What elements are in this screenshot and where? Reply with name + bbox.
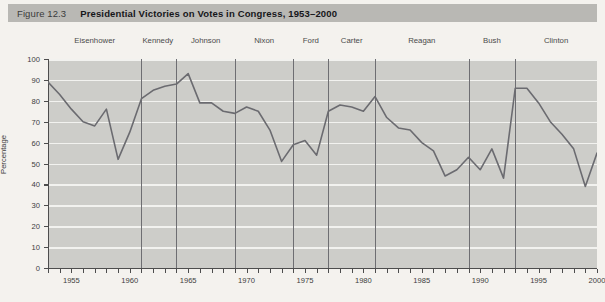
x-tick-1964	[176, 269, 177, 273]
x-tick-1975	[305, 269, 306, 273]
x-tick-1990	[480, 269, 481, 273]
x-tick-1970	[247, 269, 248, 273]
x-tick-1953	[48, 269, 49, 273]
x-tick-1966	[200, 269, 201, 273]
series-path-0	[48, 74, 597, 187]
x-tick-1957	[95, 269, 96, 273]
x-tick-1976	[317, 269, 318, 273]
x-tick-label-1965: 1965	[180, 276, 197, 285]
y-tick-label-80: 80	[14, 96, 40, 105]
y-tick-label-50: 50	[14, 159, 40, 168]
x-tick-1983	[398, 269, 399, 273]
x-tick-label-1985: 1985	[413, 276, 430, 285]
x-tick-1993	[515, 269, 516, 273]
y-tick-label-10: 10	[14, 243, 40, 252]
x-tick-1992	[504, 269, 505, 273]
x-tick-2000	[597, 269, 598, 273]
x-tick-1991	[492, 269, 493, 273]
x-tick-1978	[340, 269, 341, 273]
x-tick-1979	[352, 269, 353, 273]
x-tick-1984	[410, 269, 411, 273]
x-tick-1987	[445, 269, 446, 273]
x-tick-1986	[433, 269, 434, 273]
x-tick-1958	[106, 269, 107, 273]
x-tick-1977	[328, 269, 329, 273]
x-tick-1988	[457, 269, 458, 273]
x-tick-1963	[165, 269, 166, 273]
x-tick-1965	[188, 269, 189, 273]
x-tick-1997	[562, 269, 563, 273]
x-tick-1994	[527, 269, 528, 273]
y-tick-label-0: 0	[14, 264, 40, 273]
x-tick-1989	[469, 269, 470, 273]
x-tick-1962	[153, 269, 154, 273]
x-tick-1999	[585, 269, 586, 273]
x-tick-label-1975: 1975	[297, 276, 314, 285]
x-tick-1969	[235, 269, 236, 273]
x-tick-1980	[363, 269, 364, 273]
x-tick-label-1955: 1955	[63, 276, 80, 285]
x-tick-1974	[293, 269, 294, 273]
x-tick-1967	[212, 269, 213, 273]
y-tick-label-40: 40	[14, 180, 40, 189]
x-tick-1954	[60, 269, 61, 273]
x-tick-1981	[375, 269, 376, 273]
x-tick-label-2000: 2000	[589, 276, 605, 285]
x-tick-1998	[574, 269, 575, 273]
series-line-chart	[48, 59, 597, 268]
y-tick-label-20: 20	[14, 222, 40, 231]
y-axis-title: Percentage	[0, 135, 8, 174]
x-tick-1995	[539, 269, 540, 273]
x-tick-label-1990: 1990	[472, 276, 489, 285]
y-tick-label-60: 60	[14, 138, 40, 147]
x-tick-1956	[83, 269, 84, 273]
x-tick-1961	[141, 269, 142, 273]
x-tick-1972	[270, 269, 271, 273]
y-tick-label-70: 70	[14, 117, 40, 126]
y-tick-label-90: 90	[14, 75, 40, 84]
x-tick-1959	[118, 269, 119, 273]
x-tick-1973	[282, 269, 283, 273]
x-tick-1960	[130, 269, 131, 273]
x-tick-label-1960: 1960	[121, 276, 138, 285]
x-tick-1971	[258, 269, 259, 273]
y-tick-label-30: 30	[14, 201, 40, 210]
figure-container: Figure 12.3 Presidential Victories on Vo…	[0, 0, 605, 302]
x-tick-1955	[71, 269, 72, 273]
x-tick-label-1970: 1970	[238, 276, 255, 285]
x-tick-1996	[550, 269, 551, 273]
x-tick-1985	[422, 269, 423, 273]
y-tick-label-100: 100	[14, 55, 40, 64]
x-tick-1968	[223, 269, 224, 273]
x-tick-label-1980: 1980	[355, 276, 372, 285]
x-tick-label-1995: 1995	[530, 276, 547, 285]
plot-wrapper: 0102030405060708090100 19551960196519701…	[0, 0, 605, 302]
x-tick-1982	[387, 269, 388, 273]
